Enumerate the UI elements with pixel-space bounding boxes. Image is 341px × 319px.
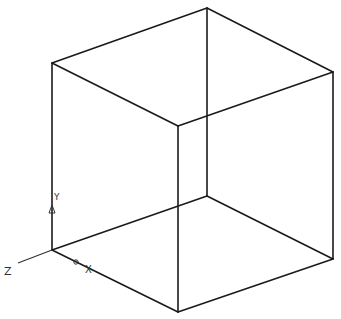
cube-edge-back-bottom-to-right-bottom <box>207 196 333 259</box>
cube-edge-front-bottom-to-right-bottom <box>178 259 333 312</box>
cube-edge-left-top-to-back-top <box>52 8 207 63</box>
z-axis-line <box>18 250 52 263</box>
x-axis-label: X <box>85 264 92 275</box>
cube-edge-front-top-to-right-top <box>178 72 333 126</box>
cube-edge-left-bottom-to-back-bottom <box>52 196 207 250</box>
z-axis-label: Z <box>4 265 12 278</box>
y-axis-label: Y <box>53 192 60 202</box>
cube-edge-left-top-to-front-top <box>52 63 178 126</box>
cube-edge-back-top-to-right-top <box>207 8 333 72</box>
ucs-icon: Z Y X <box>4 192 92 278</box>
cube-edge-left-bottom-to-front-bottom <box>52 250 178 312</box>
cube-diagram: Z Y X <box>0 0 341 319</box>
cube-edges <box>52 8 333 312</box>
